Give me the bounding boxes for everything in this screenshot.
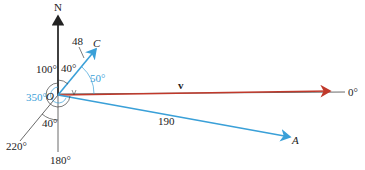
label-angle-100: 100°: [36, 63, 57, 75]
label-north: N: [54, 1, 62, 13]
label-angle-220: 220°: [6, 140, 27, 152]
label-origin: O: [46, 90, 54, 102]
vector-v: [58, 91, 330, 95]
label-point-c: C: [93, 37, 101, 49]
label-angle-40-bottom: 40°: [42, 117, 57, 129]
label-mag-c: 48: [72, 35, 84, 47]
mag-c-leader: [79, 47, 84, 58]
arc-40-top: [58, 80, 68, 84]
label-angle-40-top: 40°: [61, 62, 76, 74]
label-point-a: A: [291, 134, 299, 146]
vector-diagram: N O C A v 48 190 0° 180° 220° 100° 40° 4…: [0, 0, 365, 170]
label-vector-v: v: [178, 79, 184, 91]
label-angle-50: 50°: [90, 72, 105, 84]
label-angle-0: 0°: [348, 86, 358, 98]
label-angle-350: 350°: [26, 91, 47, 103]
label-mag-a: 190: [158, 115, 175, 127]
label-angle-180: 180°: [50, 154, 71, 166]
